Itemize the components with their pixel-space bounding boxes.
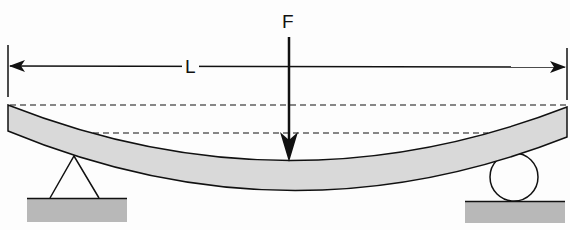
diagram-graphic — [0, 0, 570, 230]
left-ground-block — [27, 198, 127, 222]
length-dimension-line — [10, 66, 565, 67]
length-label: L — [182, 57, 199, 76]
force-label: F — [279, 12, 297, 31]
pin-support-icon — [50, 156, 99, 198]
beam-diagram: L F — [0, 0, 570, 230]
right-ground-block — [465, 201, 565, 223]
